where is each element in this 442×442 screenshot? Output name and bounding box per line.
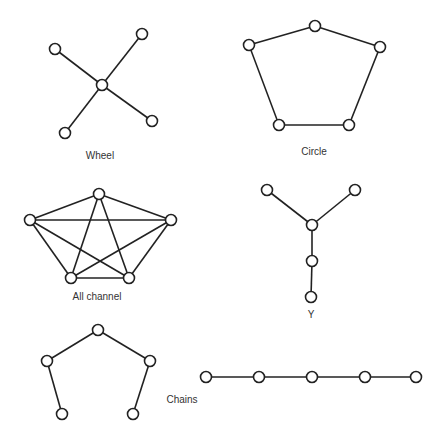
edge <box>315 26 380 47</box>
labels-layer: Wheel Circle All channel Y Chains <box>73 146 328 405</box>
edge <box>47 361 62 414</box>
node-circle <box>166 215 177 226</box>
network-circle-edges <box>249 26 380 125</box>
edge <box>99 194 129 278</box>
node-circle <box>307 256 318 267</box>
node-circle <box>50 44 61 55</box>
edge <box>65 85 102 133</box>
node-circle <box>42 356 53 367</box>
edge <box>30 194 99 220</box>
node-circle <box>201 372 212 383</box>
node-circle <box>307 220 318 231</box>
network-y-edges <box>267 190 355 297</box>
edge <box>71 194 99 278</box>
node-circle <box>344 120 355 131</box>
node-circle <box>128 409 139 420</box>
network-wheel-nodes <box>50 29 158 139</box>
network-label-chains: Chains <box>166 394 197 405</box>
node-circle <box>66 273 77 284</box>
node-circle <box>137 29 148 40</box>
network-all-channel-edges <box>30 194 171 278</box>
network-diagram: Wheel Circle All channel Y Chains <box>0 0 442 442</box>
node-circle <box>94 189 105 200</box>
node-circle <box>350 185 361 196</box>
node-circle <box>93 325 104 336</box>
edge <box>55 49 102 85</box>
edge <box>102 34 142 85</box>
edge <box>71 220 171 278</box>
edge <box>349 47 380 125</box>
network-label-all-channel: All channel <box>73 291 122 302</box>
node-circle <box>145 356 156 367</box>
node-circle <box>254 372 265 383</box>
node-circle <box>310 21 321 32</box>
edge <box>30 220 71 278</box>
network-label-y: Y <box>308 309 315 320</box>
node-circle <box>375 42 386 53</box>
edge <box>102 85 152 121</box>
node-circle <box>124 273 135 284</box>
edge <box>30 220 129 278</box>
network-chain-bent-nodes <box>42 325 156 420</box>
node-circle <box>244 40 255 51</box>
network-all-channel-nodes <box>25 189 177 284</box>
node-circle <box>25 215 36 226</box>
node-circle <box>360 372 371 383</box>
edge <box>99 194 171 220</box>
edge <box>312 190 355 225</box>
node-circle <box>97 80 108 91</box>
node-circle <box>60 128 71 139</box>
node-circle <box>411 372 422 383</box>
node-circle <box>147 116 158 127</box>
node-circle <box>306 292 317 303</box>
edge <box>98 330 150 361</box>
edges-layer <box>30 26 416 414</box>
network-label-wheel: Wheel <box>86 150 114 161</box>
network-label-circle: Circle <box>301 146 327 157</box>
node-circle <box>307 372 318 383</box>
edge <box>129 220 171 278</box>
edge <box>249 45 279 125</box>
edge <box>249 26 315 45</box>
edge <box>133 361 150 414</box>
edge <box>47 330 98 361</box>
network-circle-nodes <box>244 21 386 131</box>
network-chain-bent-edges <box>47 330 150 414</box>
edge <box>267 190 312 225</box>
node-circle <box>262 185 273 196</box>
node-circle <box>57 409 68 420</box>
node-circle <box>274 120 285 131</box>
